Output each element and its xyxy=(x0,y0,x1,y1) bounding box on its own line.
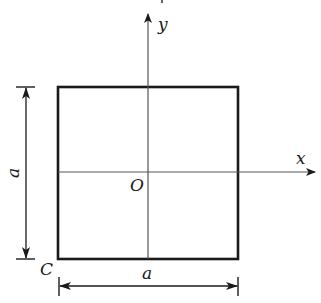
y-axis-label: y xyxy=(157,14,168,34)
side-horizontal-label: a xyxy=(142,263,152,283)
square-section-diagram: y x O C a a xyxy=(0,0,321,303)
corner-c-label: C xyxy=(40,259,53,279)
side-vertical-label: a xyxy=(3,168,23,178)
x-axis-label: x xyxy=(296,148,306,168)
origin-label: O xyxy=(130,175,144,195)
